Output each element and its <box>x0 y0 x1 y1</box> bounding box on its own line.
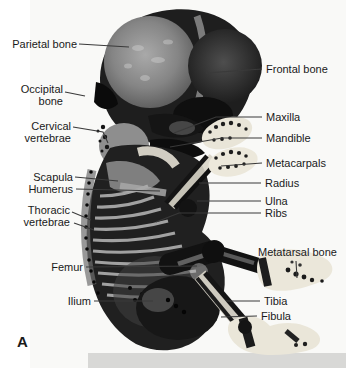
label-thoracic-vertebrae: Thoracic vertebrae <box>24 204 70 228</box>
label-scapula: Scapula <box>33 171 73 183</box>
label-metacarpals: Metacarpals <box>266 157 326 169</box>
frontal-bone-region <box>188 29 262 103</box>
label-mandible: Mandible <box>266 132 311 144</box>
label-tibia: Tibia <box>264 295 287 307</box>
label-femur: Femur <box>51 261 83 273</box>
elbow <box>179 199 197 217</box>
panel-letter: A <box>17 333 28 350</box>
label-ribs: Ribs <box>265 207 287 219</box>
label-frontal-bone: Frontal bone <box>266 63 328 75</box>
figure-panel: Parietal boneOccipital boneCervical vert… <box>0 0 346 368</box>
label-humerus: Humerus <box>28 183 73 195</box>
label-maxilla: Maxilla <box>266 111 300 123</box>
label-ulna: Ulna <box>265 195 288 207</box>
label-ilium: Ilium <box>68 295 91 307</box>
label-cervical-vertebrae: Cervical vertebrae <box>25 120 71 144</box>
label-fibula: Fibula <box>261 310 291 322</box>
label-parietal-bone: Parietal bone <box>12 38 77 50</box>
parietal-bone-region <box>104 16 196 108</box>
label-metatarsal-bone: Metatarsal bone <box>258 246 337 258</box>
label-radius: Radius <box>265 177 299 189</box>
label-occipital-bone: Occipital bone <box>21 83 63 107</box>
knee <box>202 241 224 263</box>
